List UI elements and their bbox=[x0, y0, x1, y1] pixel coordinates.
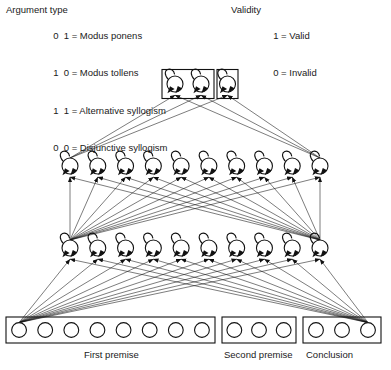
hidden-unit-lower bbox=[255, 233, 273, 257]
connection-line bbox=[70, 95, 228, 158]
connection-line bbox=[209, 177, 320, 240]
connection-line bbox=[264, 177, 320, 240]
hidden-unit-upper bbox=[171, 151, 189, 175]
output-unit bbox=[191, 69, 209, 93]
connection-line bbox=[153, 259, 368, 322]
connection-line bbox=[70, 177, 153, 240]
edges-upper-hidden-to-output bbox=[70, 95, 320, 158]
input-unit bbox=[12, 323, 27, 338]
connection-line bbox=[228, 95, 321, 158]
input-label-second-premise: Second premise bbox=[224, 349, 293, 360]
input-unit bbox=[335, 323, 350, 338]
network-diagram: Argument type 0 1 = Modus ponens 1 0 = M… bbox=[0, 0, 391, 370]
hidden-unit-upper bbox=[199, 151, 217, 175]
input-unit bbox=[168, 323, 183, 338]
connection-line bbox=[201, 95, 320, 158]
hidden-unit-lower bbox=[116, 233, 134, 257]
input-unit bbox=[195, 323, 210, 338]
hidden-unit-upper bbox=[116, 151, 134, 175]
connection-line bbox=[181, 177, 320, 240]
connection-line bbox=[175, 95, 320, 158]
hidden-unit-lower bbox=[199, 233, 217, 257]
connection-line bbox=[70, 95, 201, 158]
hidden-unit-lower bbox=[88, 233, 106, 257]
connection-line bbox=[19, 259, 70, 322]
connection-line bbox=[153, 177, 320, 240]
input-unit bbox=[64, 323, 79, 338]
input-label-conclusion: Conclusion bbox=[306, 349, 353, 360]
connection-line bbox=[19, 259, 292, 322]
input-unit bbox=[361, 323, 376, 338]
input-unit bbox=[276, 323, 291, 338]
connection-line bbox=[19, 259, 237, 322]
hidden-unit-upper bbox=[227, 151, 245, 175]
connection-line bbox=[237, 177, 320, 240]
network-graph bbox=[0, 0, 391, 370]
input-unit bbox=[227, 323, 242, 338]
output-unit bbox=[165, 69, 183, 93]
input-unit bbox=[116, 323, 131, 338]
hidden-unit-upper bbox=[282, 151, 300, 175]
input-unit bbox=[252, 323, 267, 338]
connection-line bbox=[237, 259, 368, 322]
input-unit bbox=[90, 323, 105, 338]
hidden-unit-upper bbox=[144, 151, 162, 175]
input-unit bbox=[142, 323, 157, 338]
hidden-unit-lower bbox=[171, 233, 189, 257]
connection-line bbox=[70, 95, 175, 158]
edges-lower-hidden-to-upper-hidden bbox=[70, 177, 320, 240]
hidden-unit-upper bbox=[88, 151, 106, 175]
connection-line bbox=[70, 177, 98, 240]
edges-input-to-lower-hidden bbox=[19, 259, 368, 322]
input-unit bbox=[309, 323, 324, 338]
input-unit bbox=[38, 323, 53, 338]
connection-line bbox=[98, 177, 320, 240]
connection-line bbox=[19, 259, 125, 322]
connection-line bbox=[70, 177, 209, 240]
connection-line bbox=[292, 259, 368, 322]
input-label-first-premise: First premise bbox=[84, 349, 139, 360]
connection-line bbox=[70, 177, 181, 240]
hidden-unit-lower bbox=[144, 233, 162, 257]
connection-line bbox=[70, 177, 237, 240]
output-unit bbox=[218, 69, 236, 93]
connection-line bbox=[292, 177, 320, 240]
connection-line bbox=[70, 177, 126, 240]
connection-line bbox=[70, 177, 292, 240]
connection-line bbox=[264, 259, 368, 322]
hidden-unit-upper bbox=[255, 151, 273, 175]
hidden-unit-lower bbox=[227, 233, 245, 257]
hidden-unit-lower bbox=[282, 233, 300, 257]
connection-line bbox=[126, 259, 368, 322]
layer-nodes bbox=[12, 69, 376, 337]
connection-line bbox=[70, 177, 264, 240]
connection-line bbox=[126, 177, 320, 240]
connection-line bbox=[19, 259, 264, 322]
